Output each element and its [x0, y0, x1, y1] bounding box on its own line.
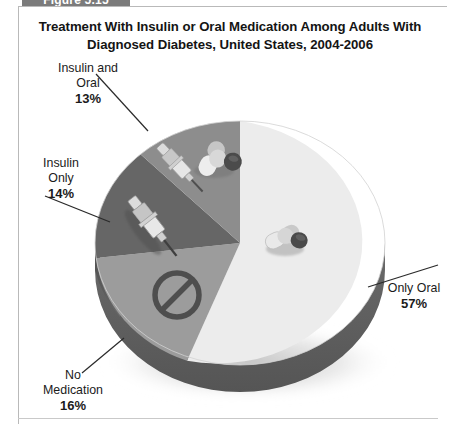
callout-insulin-and-oral: Insulin and Oral 13%: [42, 61, 134, 106]
chart-title: Treatment With Insulin or Oral Medicatio…: [30, 18, 430, 54]
callout-no-medication: No Medication 16%: [20, 368, 126, 413]
callout-only-oral: Only Oral 57%: [381, 281, 447, 311]
callout-insulin-only: Insulin Only 14%: [20, 156, 102, 201]
callout-insulin-and-oral-name-2: Oral: [42, 76, 134, 91]
chart-title-line-1: Treatment With Insulin or Oral Medicatio…: [39, 19, 422, 34]
figure-frame-bottom-edge: [18, 418, 438, 419]
callout-insulin-and-oral-name-1: Insulin and: [42, 61, 134, 76]
callout-insulin-only-name-1: Insulin: [20, 156, 102, 171]
callout-no-medication-percent: 16%: [20, 398, 126, 413]
callout-insulin-only-name-2: Only: [20, 171, 102, 186]
callout-insulin-only-percent: 14%: [20, 186, 102, 201]
callout-no-medication-name-1: No: [20, 368, 126, 383]
callout-only-oral-name: Only Oral: [381, 281, 447, 296]
callout-only-oral-percent: 57%: [381, 296, 447, 311]
callout-insulin-and-oral-percent: 13%: [42, 91, 134, 106]
callout-no-medication-name-2: Medication: [20, 383, 126, 398]
chart-title-line-2: Diagnosed Diabetes, United States, 2004-…: [30, 36, 430, 54]
